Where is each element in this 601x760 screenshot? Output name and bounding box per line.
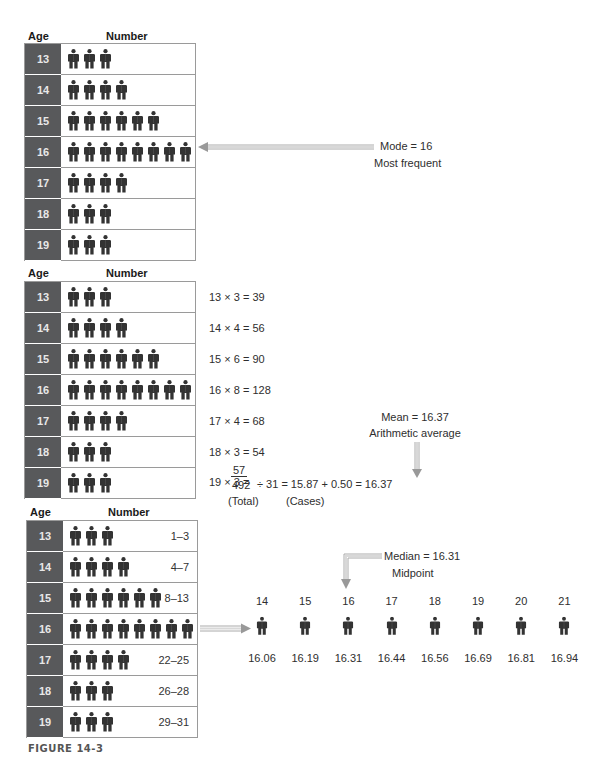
age-header-2: Age (28, 267, 49, 279)
rank-position: 14 (242, 595, 282, 607)
median-label: Median = 16.31 (384, 550, 460, 562)
median-sub: Midpoint (392, 567, 434, 579)
rank-range: 26–28 (158, 676, 189, 706)
table-row: 131–3 (27, 521, 197, 552)
person-icon (67, 287, 80, 307)
person-icon (69, 557, 82, 577)
person-icon (83, 80, 96, 100)
person-icon (342, 616, 354, 636)
person-icon (115, 318, 128, 338)
person-icon (67, 442, 80, 462)
cases-label: (Cases) (286, 495, 325, 507)
mean-sub: Arithmetic average (360, 427, 470, 439)
rank-range: 29–31 (158, 707, 189, 737)
person-icon (67, 349, 80, 369)
table-row: 16 (27, 614, 197, 645)
person-icon (147, 111, 160, 131)
person-icon (472, 616, 484, 636)
person-icon (131, 380, 144, 400)
age-cell: 15 (25, 344, 61, 375)
number-cell (63, 614, 197, 644)
number-cell (61, 468, 195, 498)
person-icon (67, 204, 80, 224)
rank-position: 20 (501, 595, 541, 607)
mean-arrow-icon (410, 442, 424, 479)
table-row: 19 (25, 230, 195, 261)
person-icon (99, 287, 112, 307)
number-cell (61, 282, 195, 312)
person-icon (117, 557, 130, 577)
person-icon (179, 380, 192, 400)
person-icon (131, 142, 144, 162)
table-row: 18 (25, 199, 195, 230)
person-icon (147, 380, 160, 400)
person-icon (67, 80, 80, 100)
person-icon (85, 557, 98, 577)
product-text: 14 × 4 = 56 (209, 322, 265, 334)
person-icon (83, 111, 96, 131)
person-icon (149, 588, 162, 608)
person-icon (99, 204, 112, 224)
person-icon (67, 411, 80, 431)
person-icon (67, 473, 80, 493)
age-cell: 16 (27, 614, 63, 645)
number-cell (61, 313, 195, 343)
person-icon (117, 650, 130, 670)
person-icon (85, 712, 98, 732)
age-value: 16.94 (542, 652, 586, 664)
person-icon (67, 142, 80, 162)
person-icon (83, 142, 96, 162)
age-cell: 13 (27, 521, 63, 552)
person-icon (115, 111, 128, 131)
table-row: 17 (25, 168, 195, 199)
table-row: 15 (25, 106, 195, 137)
number-cell (61, 230, 195, 260)
person-icon (101, 557, 114, 577)
person-icon (67, 111, 80, 131)
table-row: 1826–28 (27, 676, 197, 707)
table-row: 19 (25, 468, 195, 499)
person-icon (386, 616, 398, 636)
number-cell (61, 106, 195, 136)
age-cell: 18 (25, 437, 61, 468)
person-icon (558, 616, 570, 636)
person-icon (99, 380, 112, 400)
product-text: 17 × 4 = 68 (209, 415, 265, 427)
person-icon (69, 619, 82, 639)
number-header-2: Number (106, 267, 148, 279)
rank-range: 4–7 (171, 552, 189, 582)
mode-label: Mode = 16 (380, 140, 432, 152)
number-cell (61, 375, 195, 405)
age-cell: 17 (25, 168, 61, 199)
age-cell: 13 (25, 44, 61, 75)
person-icon (101, 588, 114, 608)
age-header-1: Age (28, 30, 49, 42)
division-text: ÷ 31 = 15.87 + 0.50 = 16.37 (257, 478, 392, 490)
person-icon (149, 619, 162, 639)
age-cell: 14 (27, 552, 63, 583)
table-row: 1722–25 (27, 645, 197, 676)
rank-position: 17 (372, 595, 412, 607)
age-cell: 16 (25, 137, 61, 168)
age-value: 16.44 (370, 652, 414, 664)
age-cell: 15 (25, 106, 61, 137)
table-row: 14 (25, 75, 195, 106)
age-cell: 19 (25, 468, 61, 499)
person-icon (85, 526, 98, 546)
person-icon (67, 380, 80, 400)
median-arrow-icon (339, 552, 383, 590)
number-cell (61, 168, 195, 198)
person-icon (515, 616, 527, 636)
mode-sub: Most frequent (374, 157, 441, 169)
person-icon (179, 142, 192, 162)
person-icon (99, 349, 112, 369)
person-icon (67, 318, 80, 338)
pictograph-table-mean: 13141516171819 (24, 281, 196, 499)
age-cell: 18 (27, 676, 63, 707)
person-icon (99, 49, 112, 69)
person-icon (256, 616, 268, 636)
age-cell: 14 (25, 313, 61, 344)
age-value: 16.56 (413, 652, 457, 664)
product-text: 18 × 3 = 54 (209, 446, 265, 458)
person-icon (99, 142, 112, 162)
